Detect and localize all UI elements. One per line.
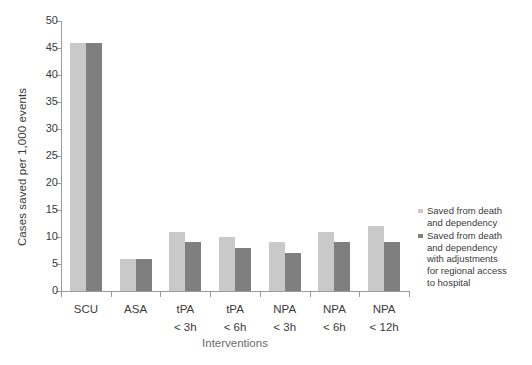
legend-item-label: Saved from death — [427, 205, 530, 217]
bar-group — [219, 21, 251, 291]
bar-group — [70, 21, 102, 291]
bar — [235, 248, 251, 291]
x-tick-mark — [359, 291, 360, 297]
x-tick-mark — [111, 291, 112, 297]
x-tick-label-line1: NPA — [273, 303, 296, 315]
y-tick-label: 50 — [46, 14, 58, 26]
x-tick-label-line1: NPA — [373, 303, 396, 315]
x-tick-label-line1: tPA — [176, 303, 194, 315]
y-axis-title: Cases saved per 1,000 events — [16, 17, 30, 317]
bar — [136, 259, 152, 291]
bar-group — [169, 21, 201, 291]
plot-area: 05101520253035404550 SCUASAtPA< 3htPA< 6… — [61, 21, 409, 291]
x-tick-label: NPA< 12h — [344, 300, 424, 336]
x-tick-mark — [409, 291, 410, 297]
legend-swatch-icon — [418, 234, 423, 239]
bar — [368, 226, 384, 291]
x-tick-mark — [160, 291, 161, 297]
x-tick-mark — [61, 291, 62, 297]
y-tick-label: 45 — [46, 41, 58, 53]
x-axis-title: Interventions — [61, 337, 409, 349]
bar — [269, 242, 285, 291]
y-tick-label: 20 — [46, 176, 58, 188]
y-tick-label: 0 — [52, 284, 58, 296]
y-tick-label: 5 — [52, 257, 58, 269]
y-tick-label: 10 — [46, 230, 58, 242]
bar — [285, 253, 301, 291]
x-tick-mark — [260, 291, 261, 297]
y-tick-label: 15 — [46, 203, 58, 215]
bar-group — [318, 21, 350, 291]
x-axis-line — [61, 291, 409, 292]
bar — [86, 43, 102, 291]
legend-swatch-icon — [418, 209, 423, 214]
bar — [219, 237, 235, 291]
bar — [318, 232, 334, 291]
legend-item-label: and dependency — [427, 242, 530, 254]
bar-group — [269, 21, 301, 291]
x-tick-label-line1: ASA — [124, 303, 147, 315]
legend-item-label: for regional access — [427, 265, 530, 277]
x-tick-label-line2: < 12h — [344, 318, 424, 336]
x-tick-mark — [310, 291, 311, 297]
legend-item-label: Saved from death — [427, 230, 530, 242]
x-tick-label-line1: SCU — [74, 303, 98, 315]
y-tick-label: 30 — [46, 122, 58, 134]
bar — [120, 259, 136, 291]
x-tick-label-line1: tPA — [226, 303, 244, 315]
bar — [384, 242, 400, 291]
legend-item-label: with adjustments — [427, 253, 530, 265]
y-tick-label: 40 — [46, 68, 58, 80]
y-tick-label: 35 — [46, 95, 58, 107]
x-tick-label-line1: NPA — [323, 303, 346, 315]
legend-item[interactable]: Saved from deathand dependencywith adjus… — [418, 230, 530, 288]
y-axis-line — [61, 21, 62, 291]
legend-item[interactable]: Saved from deathand dependency — [418, 205, 530, 228]
y-tick-label: 25 — [46, 149, 58, 161]
bar-chart-figure: Cases saved per 1,000 events 05101520253… — [0, 0, 532, 365]
bar — [185, 242, 201, 291]
bar-group — [120, 21, 152, 291]
legend-item-label: to hospital — [427, 277, 530, 289]
bar — [169, 232, 185, 291]
bar-group — [368, 21, 400, 291]
chart-legend: Saved from deathand dependencySaved from… — [418, 205, 530, 290]
legend-item-label: and dependency — [427, 217, 530, 229]
bar — [70, 43, 86, 291]
x-tick-mark — [210, 291, 211, 297]
bar — [334, 242, 350, 291]
